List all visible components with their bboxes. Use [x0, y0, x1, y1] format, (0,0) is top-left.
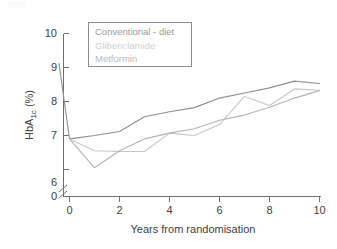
series-line-conventional-diet — [59, 63, 320, 138]
legend-label-metformin: Metformin — [95, 53, 137, 64]
x-axis-title: Years from randomisation — [131, 223, 256, 235]
y-tick-label-0: 0 — [51, 190, 57, 202]
chart-figure: 10 9 8 7 6 0 0 2 4 6 8 10 Years from ran… — [0, 0, 337, 249]
y-tick-labels: 10 9 8 7 6 0 — [45, 27, 57, 202]
x-tick-label-10: 10 — [313, 204, 325, 216]
y-tick-label-10: 10 — [45, 27, 57, 39]
x-tick-label-4: 4 — [166, 204, 172, 216]
legend-label-conventional-diet: Conventional - diet — [95, 26, 175, 37]
y-axis-title-subscript: 1c — [29, 110, 38, 118]
series-line-metformin — [70, 91, 320, 168]
y-tick-label-9: 9 — [51, 61, 57, 73]
y-axis-title: HbA1c (%) — [23, 90, 38, 140]
x-tick-label-0: 0 — [66, 204, 72, 216]
hba1c-line-chart: 10 9 8 7 6 0 0 2 4 6 8 10 Years from ran… — [0, 0, 337, 249]
data-series-group — [59, 63, 320, 167]
y-tick-label-8: 8 — [51, 95, 57, 107]
x-axis — [64, 197, 321, 202]
y-tick-label-6: 6 — [51, 176, 57, 188]
svg-text:HbA1c (%): HbA1c (%) — [23, 90, 38, 140]
y-axis-title-base: HbA — [23, 118, 35, 140]
y-axis — [59, 34, 69, 199]
series-line-glibenclamide — [70, 89, 320, 152]
x-tick-label-2: 2 — [116, 204, 122, 216]
y-tick-label-7: 7 — [51, 129, 57, 141]
legend-label-glibenclamide: Glibenclamide — [95, 40, 155, 51]
x-tick-labels: 0 2 4 6 8 10 — [66, 204, 325, 216]
x-tick-label-8: 8 — [266, 204, 272, 216]
x-tick-label-6: 6 — [216, 204, 222, 216]
y-axis-title-unit: (%) — [23, 90, 35, 110]
legend: Conventional - diet Glibenclamide Metfor… — [89, 23, 192, 67]
